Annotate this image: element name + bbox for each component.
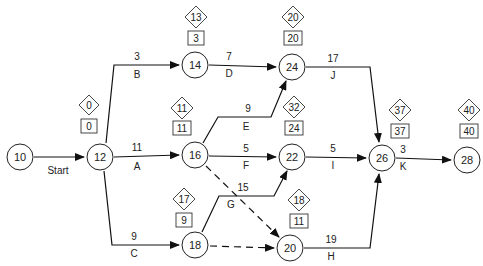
svg-text:26: 26 (376, 152, 388, 164)
latest-time-diamond: 32 (283, 96, 305, 118)
latest-time-diamond: 0 (79, 95, 99, 115)
activity-b: 3 B (106, 51, 179, 143)
svg-text:11: 11 (177, 103, 188, 114)
activity-label: K (400, 161, 407, 172)
activity-d: 7 D (209, 51, 276, 79)
activity-e: 9 E (203, 81, 286, 143)
activity-start: Start (34, 157, 84, 176)
svg-text:40: 40 (463, 126, 475, 137)
activity-duration: 7 (226, 51, 232, 62)
svg-text:28: 28 (461, 154, 473, 166)
node-28: 28 (454, 147, 480, 173)
event-times-26: 37 37 (389, 99, 411, 138)
activity-duration: 9 (131, 231, 137, 242)
activity-duration: 3 (400, 144, 406, 155)
svg-text:10: 10 (14, 151, 26, 163)
svg-text:20: 20 (287, 33, 299, 44)
svg-text:0: 0 (86, 100, 92, 111)
svg-text:16: 16 (189, 149, 201, 161)
svg-text:18: 18 (189, 239, 201, 251)
svg-text:11: 11 (177, 123, 188, 134)
event-times-20: 18 11 (288, 189, 310, 228)
event-times-16: 11 11 (171, 97, 193, 135)
node-18: 18 (182, 232, 208, 258)
node-10: 10 (7, 144, 33, 170)
activity-i: 5 I (306, 143, 366, 171)
activity-f: 5 F (209, 143, 276, 171)
svg-text:24: 24 (286, 61, 298, 73)
node-16: 16 (182, 142, 208, 168)
event-times-14: 13 3 (185, 6, 207, 45)
svg-text:0: 0 (86, 121, 92, 132)
svg-text:37: 37 (394, 126, 406, 137)
activity-duration: 11 (132, 142, 143, 153)
dummy-18-20 (210, 246, 274, 248)
earliest-time-box: 0 (81, 119, 97, 133)
node-26: 26 (369, 145, 395, 171)
earliest-time-box: 9 (176, 213, 192, 227)
activity-duration: 15 (237, 182, 249, 193)
svg-text:37: 37 (394, 105, 406, 116)
svg-text:22: 22 (286, 151, 298, 163)
activity-label: Start (47, 165, 68, 176)
activity-duration: 19 (325, 234, 337, 245)
activity-h: 19 H (304, 174, 379, 262)
svg-text:11: 11 (294, 216, 305, 227)
svg-text:32: 32 (288, 102, 300, 113)
latest-time-diamond: 18 (288, 189, 310, 211)
activity-g: 15 G (202, 171, 287, 232)
earliest-time-box: 11 (290, 214, 308, 228)
earliest-time-box: 24 (285, 121, 303, 135)
svg-text:14: 14 (189, 59, 201, 71)
activity-label: I (332, 160, 335, 171)
earliest-time-box: 11 (173, 121, 191, 135)
network-diagram: Start 3 B 11 A 9 C 7 D 9 E 5 F 15 G (0, 0, 483, 266)
event-times-18: 17 9 (173, 188, 195, 227)
latest-time-diamond: 17 (173, 188, 195, 210)
event-times-24: 20 20 (282, 6, 304, 45)
activity-label: D (225, 68, 232, 79)
event-times-12: 0 0 (79, 95, 99, 133)
node-24: 24 (279, 54, 305, 80)
activity-k: 3 K (396, 144, 451, 172)
activity-j: 17 J (306, 53, 379, 142)
event-times-28: 40 40 (458, 99, 480, 138)
node-12: 12 (87, 144, 113, 170)
latest-time-diamond: 20 (282, 6, 304, 28)
svg-text:9: 9 (181, 215, 187, 226)
event-times-22: 32 24 (283, 96, 305, 135)
activity-duration: 5 (243, 143, 249, 154)
svg-text:13: 13 (190, 12, 202, 23)
earliest-time-box: 37 (391, 124, 409, 138)
activity-label: A (134, 161, 141, 172)
earliest-time-box: 40 (460, 124, 478, 138)
svg-text:18: 18 (293, 195, 305, 206)
activity-duration: 9 (245, 103, 251, 114)
node-20: 20 (277, 235, 303, 261)
svg-text:17: 17 (178, 194, 190, 205)
activity-duration: 3 (134, 51, 140, 62)
svg-text:24: 24 (288, 123, 300, 134)
svg-text:20: 20 (284, 242, 296, 254)
latest-time-diamond: 11 (171, 97, 193, 119)
activity-duration: 5 (330, 143, 336, 154)
svg-text:12: 12 (94, 151, 106, 163)
node-14: 14 (182, 52, 208, 78)
latest-time-diamond: 40 (458, 99, 480, 121)
node-22: 22 (279, 144, 305, 170)
activity-label: G (227, 199, 235, 210)
activity-a: 11 A (114, 142, 179, 172)
activity-label: B (134, 69, 141, 80)
activity-c: 9 C (104, 171, 179, 259)
latest-time-diamond: 37 (389, 99, 411, 121)
activity-label: H (327, 251, 334, 262)
earliest-time-box: 3 (188, 31, 204, 45)
earliest-time-box: 20 (284, 31, 302, 45)
activity-label: J (331, 70, 336, 81)
svg-text:3: 3 (193, 33, 199, 44)
activity-label: E (243, 121, 250, 132)
activity-label: F (243, 160, 249, 171)
svg-text:40: 40 (463, 105, 475, 116)
activity-duration: 17 (327, 53, 339, 64)
latest-time-diamond: 13 (185, 6, 207, 28)
